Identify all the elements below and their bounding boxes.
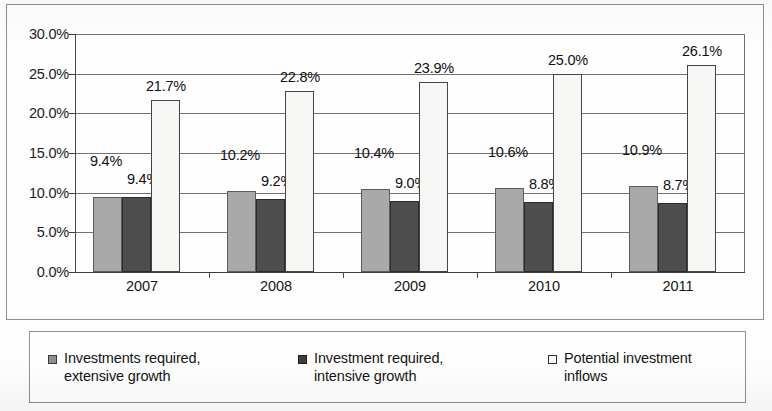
y-axis-tick-label: 10.0%: [5, 185, 69, 201]
bar-2008-series3: [285, 91, 314, 272]
bar-2010-series1: [495, 188, 524, 272]
bar-2009-series1: [361, 189, 390, 272]
y-axis-tick-label: 25.0%: [5, 66, 69, 82]
category-separator-2008: [209, 272, 210, 278]
gridline-30: [75, 34, 745, 35]
gridline-0: [75, 272, 745, 273]
data-label-2010-series1: 10.6%: [488, 144, 528, 160]
y-tick-20: [69, 113, 76, 114]
y-axis-tick-label: 30.0%: [5, 26, 69, 42]
filled-gray-square-icon: [48, 355, 57, 364]
bar-2007-series3: [151, 100, 180, 272]
data-label-2007-series1: 9.4%: [90, 153, 122, 169]
data-label-2009-series3: 23.9%: [414, 60, 454, 76]
legend-label-line-1: Investments required,: [64, 349, 200, 367]
bar-2009-series2: [390, 201, 419, 272]
y-axis-tick-label: 20.0%: [5, 105, 69, 121]
legend-label-line-2: inflows: [564, 367, 692, 385]
legend-item-label: Potential investmentinflows: [564, 349, 692, 385]
x-axis-tick-label: 2007: [126, 278, 158, 294]
bar-2011-series1: [629, 186, 658, 272]
bar-2007-series1: [93, 197, 122, 272]
legend-box: Investments required,extensive growthInv…: [29, 331, 746, 403]
bar-2010-series2: [524, 202, 553, 272]
y-tick-10: [69, 193, 76, 194]
bar-2010-series3: [553, 74, 582, 272]
x-axis-tick-label: 2009: [394, 278, 426, 294]
legend-item-label: Investments required,extensive growth: [64, 349, 200, 385]
y-tick-0: [69, 272, 76, 273]
data-label-2008-series3: 22.8%: [280, 69, 320, 85]
y-axis-tick-label: 0.0%: [5, 264, 69, 280]
legend-label-line-1: Investment required,: [314, 349, 443, 367]
legend-label-line-2: extensive growth: [64, 367, 200, 385]
legend-label-line-1: Potential investment: [564, 349, 692, 367]
bar-2008-series2: [256, 199, 285, 272]
legend-label-line-2: intensive growth: [314, 367, 443, 385]
y-tick-25: [69, 74, 76, 75]
data-label-2009-series1: 10.4%: [354, 145, 394, 161]
chart-page: 30.0%25.0%20.0%15.0%10.0%5.0%0.0%20079.4…: [0, 0, 772, 411]
legend-item-1: Investments required,extensive growth: [48, 349, 200, 385]
y-tick-15: [69, 153, 76, 154]
category-separator-2009: [343, 272, 344, 278]
y-tick-30: [69, 34, 76, 35]
y-axis-tick-label: 5.0%: [5, 224, 69, 240]
legend-item-2: Investment required,intensive growth: [298, 349, 443, 385]
data-label-2011-series1: 10.9%: [622, 142, 662, 158]
gridline-25: [75, 74, 745, 75]
x-axis-tick-label: 2008: [260, 278, 292, 294]
data-label-2007-series3: 21.7%: [146, 78, 186, 94]
outlined-white-square-icon: [548, 355, 557, 364]
data-label-2010-series3: 25.0%: [548, 52, 588, 68]
bar-2009-series3: [419, 82, 448, 272]
data-label-2011-series3: 26.1%: [682, 43, 722, 59]
bar-2011-series3: [687, 65, 716, 272]
x-axis-tick-label: 2011: [663, 278, 694, 294]
bar-2008-series1: [227, 191, 256, 272]
filled-dark-square-icon: [298, 355, 307, 364]
y-tick-5: [69, 232, 76, 233]
bar-2007-series2: [122, 197, 151, 272]
category-separator-2010: [477, 272, 478, 278]
data-label-2008-series1: 10.2%: [220, 147, 260, 163]
category-separator-2011: [611, 272, 612, 278]
bar-2011-series2: [658, 203, 687, 272]
x-axis-tick-label: 2010: [528, 278, 560, 294]
legend-item-3: Potential investmentinflows: [548, 349, 692, 385]
legend-item-label: Investment required,intensive growth: [314, 349, 443, 385]
y-axis-tick-label: 15.0%: [5, 145, 69, 161]
